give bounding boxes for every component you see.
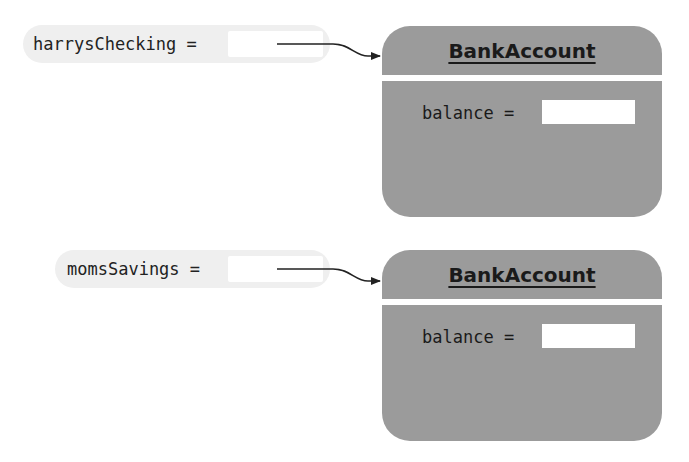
reference-arrows [0, 0, 689, 462]
arrow-1 [277, 44, 380, 56]
arrow-2 [277, 269, 380, 281]
